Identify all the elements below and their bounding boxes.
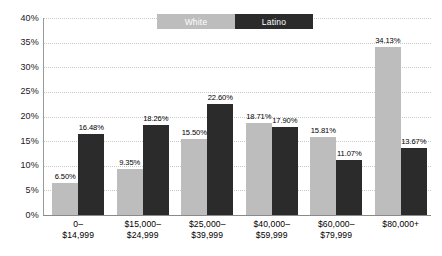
bar-value-label: 18.26%: [130, 115, 182, 123]
bar-latino[interactable]: [336, 160, 362, 215]
bar-white[interactable]: [246, 123, 272, 215]
bar-value-label: 11.07%: [323, 150, 375, 158]
bar-white[interactable]: [52, 183, 78, 215]
bar-latino[interactable]: [78, 134, 104, 215]
y-axis-tick-label: 35%: [3, 38, 39, 47]
bar-white[interactable]: [375, 47, 401, 215]
bar-value-label: 17.90%: [259, 117, 311, 125]
bar-value-label: 13.67%: [388, 138, 440, 146]
legend-item-latino: Latino: [235, 14, 313, 29]
bar-white[interactable]: [181, 139, 207, 215]
chart-legend: White Latino: [157, 14, 313, 29]
bar-latino[interactable]: [207, 104, 233, 215]
bar-chart: White Latino 40%35%30%25%20%15%10%5%0% 6…: [0, 0, 442, 256]
bar-group: 34.13%13.67%: [375, 18, 427, 215]
y-axis-tick-label: 20%: [3, 112, 39, 121]
bar-group: 15.50%22.60%: [181, 18, 233, 215]
bar-value-label: 22.60%: [194, 94, 246, 102]
bar-group: 18.71%17.90%: [246, 18, 298, 215]
bar-latino[interactable]: [272, 127, 298, 215]
bar-value-label: 15.81%: [297, 127, 349, 135]
legend-label-white: White: [185, 17, 208, 27]
y-axis-tick-label: 25%: [3, 87, 39, 96]
bar-group: 6.50%16.48%: [52, 18, 104, 215]
y-axis-tick-label: 30%: [3, 63, 39, 72]
bar-value-label: 16.48%: [65, 124, 117, 132]
chart-plot-bars: 6.50%16.48%9.35%18.26%15.50%22.60%18.71%…: [44, 18, 431, 215]
x-axis-labels: 0–$14,999$15,000–$24,999$25,000–$39,999$…: [44, 219, 431, 253]
legend-item-white: White: [157, 14, 235, 29]
y-axis-tick-label: 5%: [3, 186, 39, 195]
y-axis-tick-label: 15%: [3, 137, 39, 146]
y-axis-tick-label: 0%: [3, 211, 39, 220]
y-axis-tick-label: 40%: [3, 14, 39, 23]
axis-baseline: [43, 215, 431, 216]
bar-latino[interactable]: [401, 148, 427, 215]
y-axis-ticks: 40%35%30%25%20%15%10%5%0%: [0, 18, 39, 215]
y-axis-tick-label: 10%: [3, 161, 39, 170]
bar-white[interactable]: [117, 169, 143, 215]
bar-white[interactable]: [310, 137, 336, 215]
x-axis-category-label: $80,000+: [363, 219, 439, 230]
bar-group: 15.81%11.07%: [310, 18, 362, 215]
bar-group: 9.35%18.26%: [117, 18, 169, 215]
bar-latino[interactable]: [143, 125, 169, 215]
bar-value-label: 34.13%: [362, 37, 414, 45]
legend-label-latino: Latino: [262, 17, 286, 27]
